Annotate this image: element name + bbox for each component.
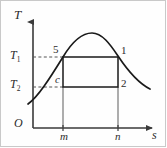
origin-label: O (14, 117, 23, 129)
point-label-2: 2 (121, 78, 127, 89)
y-tick-label-t1: T1 (10, 49, 20, 61)
x-tick-label-m: m (60, 131, 68, 142)
y-tick-base-t1: T (10, 48, 17, 62)
y-axis-label: T (14, 8, 21, 21)
x-axis-label: s (152, 129, 157, 141)
y-tick-sub-t2: 2 (17, 84, 21, 93)
plot-canvas (0, 0, 167, 148)
y-tick-label-t2: T2 (10, 78, 20, 90)
ts-diagram-figure: T s O T1 T2 m n 5 1 c 2 (0, 0, 167, 148)
cycle-rectangle (63, 57, 118, 87)
y-tick-sub-t1: 1 (17, 55, 21, 64)
point-label-5: 5 (53, 44, 59, 55)
saturation-dome-curve (28, 33, 150, 104)
point-label-1: 1 (121, 45, 127, 56)
x-tick-label-n: n (115, 131, 121, 142)
point-label-c: c (55, 74, 60, 85)
y-tick-base-t2: T (10, 77, 17, 91)
